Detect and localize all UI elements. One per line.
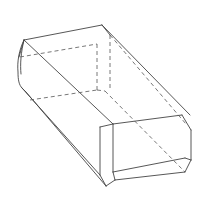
hidden-edge	[20, 44, 97, 57]
visible-edges	[18, 25, 191, 186]
hidden-edge	[105, 91, 185, 172]
visible-edge	[182, 115, 191, 130]
hidden-edge	[97, 90, 105, 91]
visible-edge	[102, 25, 110, 35]
visible-edge	[24, 40, 113, 124]
visible-edge	[115, 172, 185, 180]
figure-canvas: Rectangular prism with chamfered and rou…	[0, 0, 209, 209]
visible-edge	[185, 160, 191, 172]
visible-edge	[113, 158, 185, 172]
hidden-edges	[20, 35, 186, 172]
prism-drawing	[0, 0, 209, 209]
hidden-edge	[110, 35, 186, 124]
visible-edge	[24, 25, 102, 40]
visible-edge	[113, 172, 115, 180]
hidden-edge	[30, 90, 97, 100]
visible-edge	[113, 115, 182, 124]
visible-edge	[185, 158, 191, 160]
visible-edge	[22, 88, 26, 92]
visible-edge	[106, 180, 115, 186]
visible-edge	[100, 124, 113, 127]
